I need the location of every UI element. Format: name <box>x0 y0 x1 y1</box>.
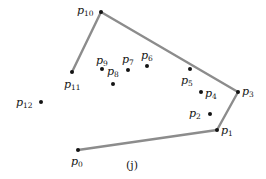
point-label-p0: p0 <box>71 156 83 167</box>
point-marker-p2[interactable] <box>208 112 212 116</box>
polygon-edge-layer <box>72 12 238 150</box>
polygon-edge-p3-p10 <box>101 12 238 92</box>
point-marker-p12[interactable] <box>39 100 43 104</box>
geometry-figure: p0p1p2p3p4p5p6p7p8p9p10p11p12 (j) <box>0 0 266 179</box>
point-marker-p7[interactable] <box>126 68 130 72</box>
point-label-p10: p10 <box>77 5 94 16</box>
point-label-p9: p9 <box>96 55 108 66</box>
point-marker-p0[interactable] <box>76 148 80 152</box>
figure-caption: (j) <box>126 160 138 171</box>
point-marker-p11[interactable] <box>70 70 74 74</box>
polygon-canvas <box>0 0 266 179</box>
point-marker-p6[interactable] <box>145 64 149 68</box>
polygon-edge-p0-p1 <box>78 130 217 150</box>
point-label-p6: p6 <box>141 50 153 61</box>
point-label-p2: p2 <box>189 108 201 119</box>
point-label-p8: p8 <box>107 66 119 77</box>
point-label-p7: p7 <box>122 54 134 65</box>
point-label-p4: p4 <box>205 88 217 99</box>
point-label-p11: p11 <box>64 79 81 90</box>
point-label-p1: p1 <box>221 125 233 136</box>
point-marker-p10[interactable] <box>99 10 103 14</box>
point-marker-p3[interactable] <box>236 90 240 94</box>
point-label-p12: p12 <box>16 97 33 108</box>
point-marker-p4[interactable] <box>199 90 203 94</box>
point-label-p3: p3 <box>242 86 254 97</box>
point-marker-p1[interactable] <box>215 128 219 132</box>
point-marker-p5[interactable] <box>188 67 192 71</box>
point-label-p5: p5 <box>181 75 193 86</box>
point-marker-p8[interactable] <box>111 82 115 86</box>
